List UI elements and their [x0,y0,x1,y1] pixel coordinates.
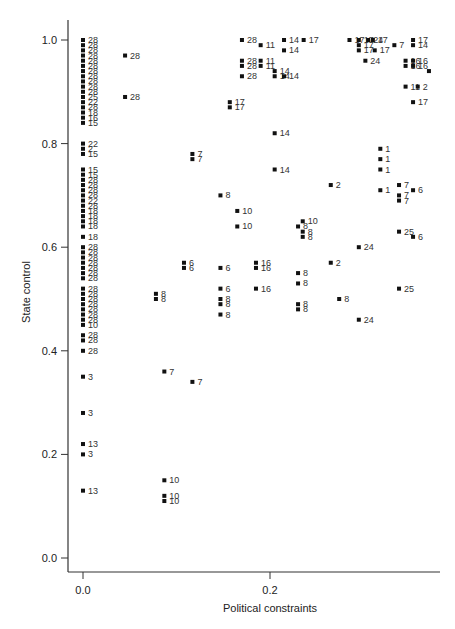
square-marker-icon [81,349,85,353]
square-marker-icon [81,307,85,311]
data-point: 13 [81,439,98,449]
data-point: 18 [81,232,98,242]
square-marker-icon [81,287,85,291]
square-marker-icon [81,188,85,192]
square-marker-icon [81,142,85,146]
data-point: 8 [296,268,308,278]
square-marker-icon [392,43,396,47]
data-point: 8 [218,190,230,200]
data-point: 24 [363,56,380,66]
data-point: 8 [218,310,230,320]
square-marker-icon [162,370,166,374]
square-marker-icon [378,168,382,172]
point-label: 6 [189,263,194,273]
x-tick-label: 0.0 [75,584,90,596]
square-marker-icon [259,43,263,47]
square-marker-icon [254,287,258,291]
point-label: 11 [266,40,275,50]
square-marker-icon [411,188,415,192]
square-marker-icon [81,147,85,151]
point-label: 28 [130,51,140,61]
point-label: 8 [308,232,313,242]
square-marker-icon [162,478,166,482]
square-marker-icon [363,59,367,63]
square-marker-icon [235,224,239,228]
data-point: 3 [81,408,93,418]
data-point: 1 [378,185,390,195]
square-marker-icon [301,230,305,234]
square-marker-icon [190,380,194,384]
point-label: 15 [88,149,98,159]
square-marker-icon [81,297,85,301]
y-axis-title: State control [20,261,32,323]
square-marker-icon [373,48,377,52]
data-point: 17 [411,97,428,107]
square-marker-icon [254,266,258,270]
point-label: 1 [385,144,390,154]
point-label: 7 [197,154,202,164]
square-marker-icon [240,74,244,78]
data-point: 6 [411,185,423,195]
point-label: 25 [404,284,414,294]
square-marker-icon [411,235,415,239]
square-marker-icon [81,214,85,218]
x-ticks: 0.00.2 [75,572,277,596]
square-marker-icon [81,48,85,52]
point-label: 13 [88,486,98,496]
point-label: 16 [261,263,271,273]
square-marker-icon [357,38,361,42]
square-marker-icon [81,95,85,99]
square-marker-icon [81,105,85,109]
square-marker-icon [273,69,277,73]
point-label: 28 [88,273,98,283]
data-point: 8 [296,278,308,288]
square-marker-icon [81,69,85,73]
square-marker-icon [81,178,85,182]
point-label: 14 [418,40,428,50]
point-label: 17 [380,45,390,55]
data-point: 24 [357,315,374,325]
square-marker-icon [296,281,300,285]
square-marker-icon [397,287,401,291]
square-marker-icon [378,147,382,151]
square-marker-icon [397,230,401,234]
square-marker-icon [235,209,239,213]
data-point: 2 [329,180,341,190]
point-label: 1 [385,185,390,195]
point-label: 28 [130,92,140,102]
point-label: 13 [88,439,98,449]
square-marker-icon [81,323,85,327]
point-label: 16 [418,61,428,71]
point-label: 10 [88,320,98,330]
square-marker-icon [218,287,222,291]
point-label: 8 [303,268,308,278]
square-marker-icon [81,452,85,456]
data-point: 11 [259,40,275,50]
point-label: 2 [423,82,428,92]
point-label: 6 [418,185,423,195]
square-marker-icon [162,494,166,498]
point-label: 28 [88,346,98,356]
point-label: 18 [88,232,98,242]
square-marker-icon [273,168,277,172]
square-marker-icon [218,193,222,197]
data-point: 10 [235,206,252,216]
point-label: 17 [235,102,245,112]
data-point: 6 [218,263,230,273]
square-marker-icon [218,302,222,306]
square-marker-icon [81,271,85,275]
point-label: 14 [280,128,290,138]
point-label: 17 [364,45,374,55]
square-marker-icon [411,38,415,42]
square-marker-icon [411,59,415,63]
square-marker-icon [357,318,361,322]
axes [68,20,440,572]
point-label: 7 [169,367,174,377]
square-marker-icon [282,38,286,42]
point-label: 3 [88,449,93,459]
square-marker-icon [81,199,85,203]
data-point: 28 [123,51,140,61]
data-point: 7 [190,377,202,387]
square-marker-icon [357,43,361,47]
square-marker-icon [81,219,85,223]
